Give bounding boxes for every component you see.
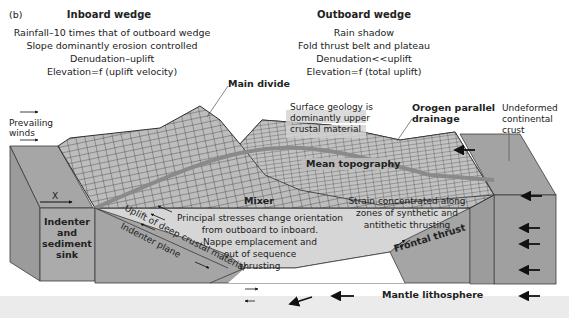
mantle-lithosphere-label: Mantle lithosphere [382, 289, 483, 300]
strain-line-1: Strain concentrated along [348, 196, 465, 206]
surface-geology-line-1: Surface geology is [290, 102, 373, 112]
principal-line-3: Nappe emplacement and [203, 237, 317, 247]
indenter-line-1: Indenter [44, 216, 90, 227]
orogen-parallel-label-2: drainage [412, 113, 460, 124]
outboard-line-1: Rain shadow [334, 27, 395, 38]
outboard-title: Outboard wedge [317, 9, 411, 20]
mantle-arrow-diag [290, 297, 312, 304]
inboard-line-4: Elevation=f (uplift velocity) [47, 66, 177, 77]
mixer-label: Mixer [244, 195, 274, 206]
inboard-line-1: Rainfall–10 times that of outboard wedge [14, 27, 211, 38]
prevailing-winds-label-1: Prevailing [9, 118, 53, 128]
inboard-line-3: Denudation–uplift [70, 53, 155, 64]
outboard-line-4: Elevation=f (total uplift) [307, 66, 422, 77]
strain-line-2: zones of synthetic and [356, 208, 458, 218]
indenter-line-4: sink [56, 249, 79, 260]
main-divide-label: Main divide [228, 78, 290, 89]
inboard-line-2: Slope dominantly erosion controlled [26, 40, 197, 51]
undeformed-label-3: crust [502, 125, 525, 135]
prevailing-winds-label-2: winds [9, 128, 35, 138]
undeformed-crust-block [460, 134, 556, 284]
principal-line-1: Principal stresses change orientation [177, 213, 343, 223]
orogen-parallel-label-1: Orogen parallel [412, 102, 495, 113]
indenter-line-2: and [57, 227, 77, 238]
main-divide-leader [207, 86, 228, 117]
inboard-wedge-text: Inboard wedge Rainfall–10 times that of … [14, 9, 211, 77]
panel-label: (b) [9, 9, 22, 20]
surface-geology-line-3: crustal material [290, 124, 361, 134]
x-marker-label: X [52, 191, 58, 201]
mean-topography-text: Mean topography [306, 158, 401, 169]
strain-label: Strain concentrated along zones of synth… [348, 196, 465, 230]
strain-line-3: antithetic thrusting [364, 220, 451, 230]
outboard-line-3: Denudation<<uplift [316, 53, 412, 64]
outboard-wedge-text: Outboard wedge Rain shadow Fold thrust b… [298, 9, 430, 77]
surface-geology-line-2: dominantly upper [290, 113, 370, 123]
indenter-line-3: sediment [42, 238, 92, 249]
undeformed-label-2: continental [502, 114, 553, 124]
undeformed-label-1: Undeformed [502, 103, 558, 113]
outboard-line-2: Fold thrust belt and plateau [298, 40, 430, 51]
inboard-title: Inboard wedge [67, 9, 152, 20]
surface-geology-label: Surface geology is dominantly upper crus… [286, 102, 373, 138]
mean-topography-label: Mean topography [302, 158, 401, 170]
orogen-wedge-diagram: (b) Inboard wedge Rainfall–10 times that… [0, 0, 569, 318]
principal-line-2: from outboard to inboard. [202, 225, 318, 235]
principal-line-4: out of sequence [224, 249, 297, 259]
principal-line-5: thrusting [240, 261, 281, 271]
drainage-leader [397, 119, 412, 141]
